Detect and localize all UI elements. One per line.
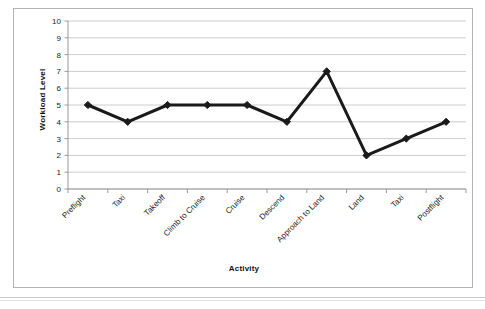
y-axis-title: Workload Level — [38, 50, 47, 150]
x-tick-labels: PreflightTaxiTakeoffClimb to CruiseCruis… — [60, 193, 446, 245]
y-tick-label: 10 — [52, 17, 61, 26]
x-axis-title: Activity — [14, 264, 474, 273]
x-tick-label: Cruise — [224, 193, 247, 216]
chart-figure-frame: 012345678910 PreflightTaxiTakeoffClimb t… — [13, 8, 473, 288]
y-tick-label: 8 — [57, 51, 62, 60]
data-point-marker[interactable] — [204, 101, 211, 108]
y-tick-label: 1 — [57, 168, 62, 177]
y-tick-label: 9 — [57, 34, 62, 43]
line-chart-svg: 012345678910 PreflightTaxiTakeoffClimb t… — [14, 9, 474, 289]
x-tick-label: Climb to Cruise — [162, 193, 207, 238]
y-tick-label: 4 — [57, 118, 62, 127]
x-tick-label: Land — [347, 193, 366, 212]
y-tick-label: 2 — [57, 151, 62, 160]
y-tick-label: 7 — [57, 67, 62, 76]
figure-root: 012345678910 PreflightTaxiTakeoffClimb t… — [0, 0, 485, 309]
y-tick-label: 6 — [57, 84, 62, 93]
gridlines-layer — [68, 21, 466, 189]
page-separator-rule — [0, 297, 485, 298]
y-tick-label: 0 — [57, 185, 62, 194]
series-line-layer — [88, 71, 446, 155]
x-tick-label: Taxi — [111, 193, 128, 210]
series-line — [88, 71, 446, 155]
x-tick-label: Takeoff — [142, 193, 167, 218]
x-tick-label: Postflight — [416, 193, 446, 223]
x-tick-label: Descend — [258, 193, 287, 222]
x-axis-group — [68, 189, 466, 193]
y-tick-label: 3 — [57, 135, 62, 144]
page-separator-rule-secondary — [0, 300, 485, 301]
chart-canvas: 012345678910 PreflightTaxiTakeoffClimb t… — [14, 9, 474, 289]
x-tick-label: Taxi — [389, 193, 406, 210]
x-tick-label: Preflight — [60, 193, 88, 221]
y-tick-label: 5 — [57, 101, 62, 110]
y-axis-group — [65, 21, 69, 189]
y-tick-labels: 012345678910 — [52, 17, 61, 194]
